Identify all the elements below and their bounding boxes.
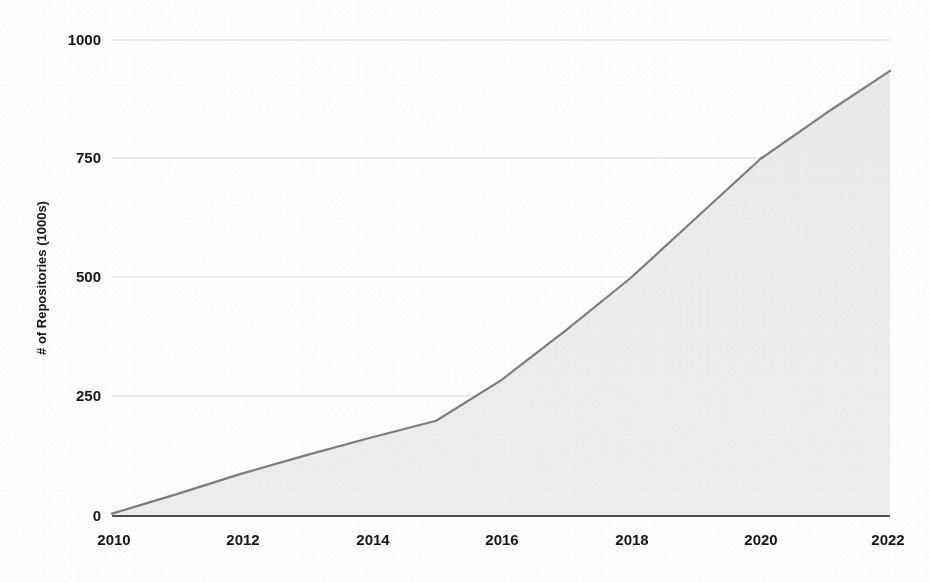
chart-container: 1000 750 500 250 0 2010 2012 2014 2016 2… — [0, 0, 929, 583]
y-tick-label-1000: 1000 — [68, 31, 101, 48]
y-tick-labels: 1000 750 500 250 0 — [68, 31, 101, 524]
y-tick-label-750: 750 — [76, 149, 101, 166]
x-tick-label-2022: 2022 — [871, 531, 904, 548]
y-axis-title: # of Repositories (1000s) — [34, 201, 49, 355]
x-tick-label-2014: 2014 — [356, 531, 390, 548]
x-tick-label-2016: 2016 — [485, 531, 518, 548]
area-chart: 1000 750 500 250 0 2010 2012 2014 2016 2… — [0, 0, 929, 583]
y-tick-label-0: 0 — [93, 507, 101, 524]
x-tick-label-2010: 2010 — [97, 531, 130, 548]
x-tick-label-2018: 2018 — [615, 531, 648, 548]
x-tick-labels: 2010 2012 2014 2016 2018 2020 2022 — [97, 531, 904, 548]
y-tick-label-500: 500 — [76, 268, 101, 285]
x-tick-label-2020: 2020 — [744, 531, 777, 548]
y-tick-label-250: 250 — [76, 387, 101, 404]
x-tick-label-2012: 2012 — [226, 531, 259, 548]
